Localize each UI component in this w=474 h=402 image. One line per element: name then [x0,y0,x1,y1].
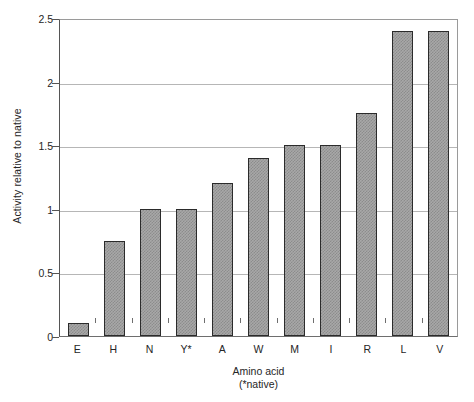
y-axis-tick-label: 2.5 [13,13,53,25]
bar[interactable] [392,31,413,336]
bar-chart-figure: Activity relative to native 2.521.510.50… [0,0,474,402]
bar[interactable] [140,209,161,336]
y-axis-tick-label: 1 [13,204,53,216]
bar-slot [349,20,385,336]
x-axis-title: Amino acid (*native) [59,365,458,391]
y-axis-tick-mark [52,146,59,147]
x-axis-tick-mark [132,318,133,323]
bar-slot [240,20,276,336]
bar[interactable] [320,145,341,336]
y-axis-tick-mark [52,19,59,20]
x-axis-tick-label: R [349,343,385,355]
bar-slot [204,20,240,336]
bar-slot [168,20,204,336]
x-axis-tick-mark [240,318,241,323]
x-axis-tick-labels: EHNY*AWMIRLV [59,343,458,355]
x-axis-tick-label: W [240,343,276,355]
x-axis-title-line1: Amino acid [59,365,458,378]
y-axis-tick-label: 0 [13,331,53,343]
bar[interactable] [248,158,269,336]
x-axis-tick-label: I [313,343,349,355]
x-axis-tick-mark [95,318,96,323]
y-axis-tick-label: 1.5 [13,140,53,152]
y-axis-tick-mark [52,210,59,211]
y-axis-tick-mark [52,337,59,338]
bar-slot [60,20,96,336]
x-axis-title-line2: (*native) [59,378,458,391]
bar-slot [132,20,168,336]
x-axis-tick-label: Y* [168,343,204,355]
plot-area [59,19,458,337]
x-axis-tick-label: L [385,343,421,355]
x-axis-tick-label: N [132,343,168,355]
bar-slot [313,20,349,336]
y-axis-tick-mark [52,273,59,274]
y-axis-tick-label: 2 [13,77,53,89]
x-axis-tick-mark [168,318,169,323]
x-axis-tick-mark [349,318,350,323]
x-axis-tick-label: V [422,343,458,355]
bar[interactable] [212,183,233,336]
bar-slot [421,20,457,336]
y-axis-title: Activity relative to native [11,56,23,276]
bar[interactable] [356,113,377,336]
bar[interactable] [284,145,305,336]
x-axis-tick-label: A [204,343,240,355]
x-axis-tick-mark [385,318,386,323]
bar-slot [385,20,421,336]
y-axis-tick-mark [52,83,59,84]
x-axis-tick-label: H [95,343,131,355]
x-axis-tick-mark [204,318,205,323]
x-axis-tick-label: M [277,343,313,355]
bar-slot [96,20,132,336]
x-axis-tick-mark [313,318,314,323]
x-axis-tick-mark [277,318,278,323]
x-axis-tick-mark [422,318,423,323]
x-axis-tick-label: E [59,343,95,355]
bar-series [60,20,457,336]
bar-slot [277,20,313,336]
y-axis-tick-label: 0.5 [13,267,53,279]
bar[interactable] [176,209,197,336]
bar[interactable] [68,323,89,336]
bar[interactable] [104,241,125,336]
bar[interactable] [428,31,449,336]
